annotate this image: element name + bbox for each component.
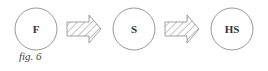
node-hs-label: HS xyxy=(225,23,240,35)
arrow-f-to-s xyxy=(67,15,101,43)
node-hs: HS xyxy=(211,8,253,50)
arrow-s-to-hs xyxy=(165,15,199,43)
node-s: S xyxy=(113,8,155,50)
node-s-label: S xyxy=(131,23,137,35)
figure-caption: fig. 6 xyxy=(19,50,42,62)
node-f: F xyxy=(15,8,57,50)
node-f-label: F xyxy=(33,23,40,35)
